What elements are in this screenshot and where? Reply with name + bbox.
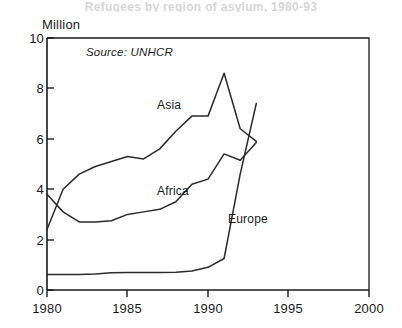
x-tick-1995: 1995 xyxy=(265,301,311,316)
y-tick-2: 2 xyxy=(18,233,44,248)
x-tick-1980: 1980 xyxy=(24,301,70,316)
x-axis-ticks xyxy=(47,290,369,297)
refugee-line-chart: Refugees by region of asylum, 1980-93 Mi… xyxy=(0,0,402,328)
series-label-africa: Africa xyxy=(157,184,189,198)
x-tick-1985: 1985 xyxy=(104,301,150,316)
y-tick-0: 0 xyxy=(18,283,44,298)
series-label-asia: Asia xyxy=(157,98,181,112)
y-axis-ticks xyxy=(47,38,54,290)
series-line-europe xyxy=(47,104,256,275)
plot-svg xyxy=(0,0,402,328)
y-tick-6: 6 xyxy=(18,132,44,147)
y-tick-8: 8 xyxy=(18,81,44,96)
series-label-europe: Europe xyxy=(228,212,268,226)
series-line-asia xyxy=(47,73,256,229)
x-tick-2000: 2000 xyxy=(346,301,392,316)
plot-frame xyxy=(47,38,369,290)
y-tick-4: 4 xyxy=(18,182,44,197)
frame-border xyxy=(47,38,369,290)
y-tick-10: 10 xyxy=(18,31,44,46)
x-tick-1990: 1990 xyxy=(185,301,231,316)
